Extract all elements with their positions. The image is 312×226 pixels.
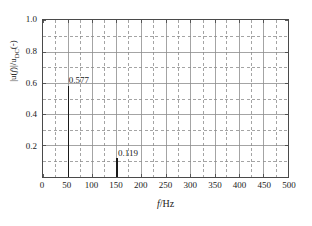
annotation-0.577: 0.577 [69,75,89,85]
x-axis-title-unit: /Hz [160,198,174,209]
y-axis-title: |u(f)|/uDC(-) [6,0,24,126]
annotation-0.119: 0.119 [118,148,138,158]
y-axis-title-prefix: |u( [8,73,18,82]
spectrum-chart-figure: 050100150200250300350400450500 0.20.40.6… [0,0,312,226]
y-axis-title-suffix: (-) [8,40,18,49]
y-axis-title-variable: f [8,70,18,73]
x-tick-label-500: 500 [269,180,309,191]
x-axis-title: f/Hz [42,198,289,209]
y-tick-label-0.2: 0.2 [0,141,37,151]
y-axis-title-wrapper: |u(f)|/uDC(-) [6,0,20,126]
y-axis-title-mid: )|/u [8,58,18,70]
plot-area [42,19,289,178]
y-axis-title-subscript: DC [13,49,20,58]
data-series-spikes [43,20,288,177]
